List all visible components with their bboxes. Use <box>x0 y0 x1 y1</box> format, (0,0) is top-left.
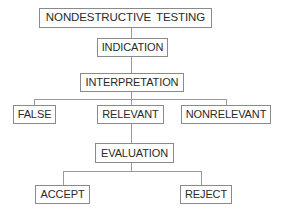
node-indication: INDICATION <box>97 38 168 57</box>
connector-interpretation-branch <box>131 91 132 99</box>
ndt-flowchart: NONDESTRUCTIVE TESTING INDICATION INTERP… <box>0 0 283 211</box>
node-interpretation: INTERPRETATION <box>80 73 184 92</box>
node-relevant: RELEVANT <box>97 105 164 124</box>
node-evaluation: EVALUATION <box>95 143 174 163</box>
connector-evaluation-crossbar <box>63 171 202 172</box>
connector-root-indication <box>131 27 132 38</box>
connector-to-reject <box>201 171 202 185</box>
node-nonrelevant: NONRELEVANT <box>181 105 271 124</box>
connector-evaluation-branch <box>131 162 132 171</box>
connector-relevant-evaluation <box>131 123 132 143</box>
node-nondestructive-testing: NONDESTRUCTIVE TESTING <box>39 8 212 28</box>
connector-indication-interpretation <box>131 56 132 73</box>
node-accept: ACCEPT <box>35 185 90 204</box>
node-reject: REJECT <box>180 185 232 204</box>
node-false: FALSE <box>13 105 56 124</box>
connector-to-accept <box>63 171 64 185</box>
